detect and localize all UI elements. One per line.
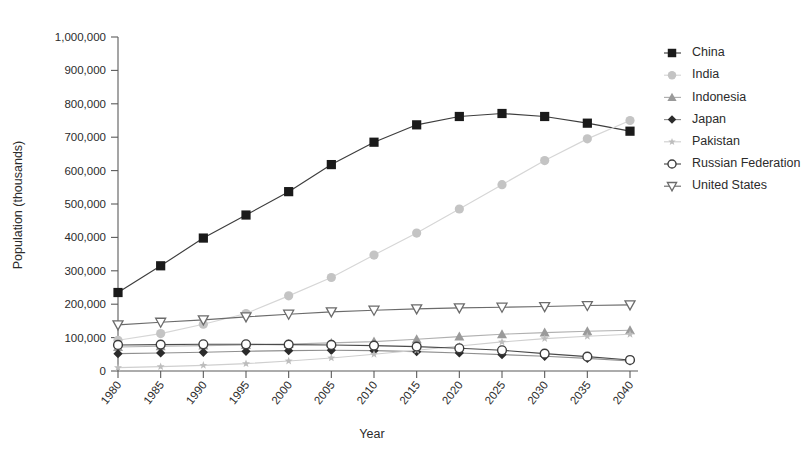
y-tick-label: 1,000,000: [55, 31, 106, 43]
marker-star: [327, 354, 335, 362]
marker-filled-circle: [583, 134, 592, 143]
legend-label: China: [692, 45, 725, 59]
marker-filled-diamond: [668, 115, 676, 123]
marker-open-circle: [540, 349, 549, 358]
marker-star: [285, 357, 293, 365]
legend-item-united-states[interactable]: United States: [664, 178, 767, 192]
x-tick-label: 1990: [184, 379, 209, 407]
marker-filled-square: [284, 187, 293, 196]
legend-item-japan[interactable]: Japan: [664, 112, 726, 126]
y-tick-label: 800,000: [64, 98, 106, 110]
legend-item-india[interactable]: India: [664, 67, 719, 81]
marker-filled-square: [412, 120, 421, 129]
legend-label: Pakistan: [692, 134, 740, 148]
legend-label: India: [692, 67, 719, 81]
x-tick-label: 2010: [354, 379, 379, 407]
marker-filled-circle: [625, 116, 634, 125]
data-series-group: [113, 109, 635, 371]
marker-filled-square: [540, 112, 549, 121]
marker-open-circle: [284, 340, 293, 349]
x-tick-label: 2020: [440, 379, 465, 407]
marker-star: [242, 359, 250, 367]
marker-filled-square: [241, 210, 250, 219]
series-china: [113, 109, 634, 297]
legend-item-indonesia[interactable]: Indonesia: [664, 90, 746, 104]
marker-open-circle: [455, 344, 464, 353]
x-tick-label: 2035: [568, 379, 593, 407]
marker-filled-square: [497, 109, 506, 118]
marker-star: [498, 338, 506, 346]
marker-filled-circle: [369, 251, 378, 260]
marker-open-circle: [668, 160, 676, 168]
marker-open-circle: [242, 340, 251, 349]
x-tick-label: 2040: [610, 379, 635, 407]
marker-filled-square: [113, 288, 122, 297]
marker-open-triangle-down: [113, 321, 123, 330]
y-axis: 0100,000200,000300,000400,000500,000600,…: [55, 31, 118, 377]
x-tick-label: 2030: [525, 379, 550, 407]
marker-filled-circle: [668, 71, 676, 79]
marker-open-circle: [412, 342, 421, 351]
x-tick-label: 2025: [482, 379, 507, 407]
marker-filled-square: [668, 49, 676, 57]
x-tick-label: 2015: [397, 379, 422, 407]
marker-filled-square: [327, 160, 336, 169]
y-axis-title: Population (thousands): [11, 141, 25, 270]
marker-filled-square: [156, 261, 165, 270]
y-tick-label: 700,000: [64, 131, 106, 143]
y-tick-label: 400,000: [64, 231, 106, 243]
marker-filled-circle: [327, 273, 336, 282]
x-tick-label: 1980: [98, 379, 123, 407]
y-tick-label: 100,000: [64, 332, 106, 344]
marker-open-circle: [626, 356, 635, 365]
marker-filled-square: [455, 112, 464, 121]
chart-canvas: 0100,000200,000300,000400,000500,000600,…: [0, 0, 807, 453]
marker-open-circle: [199, 340, 208, 349]
x-tick-label: 1995: [226, 379, 251, 407]
legend-label: Japan: [692, 112, 726, 126]
legend-label: Russian Federation: [692, 156, 800, 170]
marker-filled-circle: [540, 156, 549, 165]
legend-label: United States: [692, 178, 767, 192]
y-tick-label: 0: [100, 365, 106, 377]
marker-filled-square: [583, 119, 592, 128]
marker-star: [668, 138, 675, 145]
y-tick-label: 500,000: [64, 198, 106, 210]
x-axis-title: Year: [359, 427, 384, 441]
marker-open-circle: [156, 340, 165, 349]
marker-filled-square: [625, 127, 634, 136]
marker-filled-circle: [284, 291, 293, 300]
marker-filled-square: [369, 138, 378, 147]
marker-filled-circle: [497, 180, 506, 189]
y-tick-label: 900,000: [64, 64, 106, 76]
x-tick-label: 2005: [312, 379, 337, 407]
marker-open-circle: [498, 346, 507, 355]
legend-item-pakistan[interactable]: Pakistan: [664, 134, 740, 148]
marker-star: [199, 361, 207, 369]
marker-open-circle: [327, 341, 336, 350]
marker-filled-circle: [156, 329, 165, 338]
legend-item-china[interactable]: China: [664, 45, 725, 59]
marker-filled-circle: [455, 204, 464, 213]
marker-open-circle: [114, 341, 123, 350]
x-tick-label: 1985: [141, 379, 166, 407]
series-united-states: [113, 301, 635, 330]
legend-item-russian-federation[interactable]: Russian Federation: [664, 156, 800, 170]
y-tick-label: 600,000: [64, 165, 106, 177]
marker-open-circle: [370, 341, 379, 350]
chart-legend: ChinaIndiaIndonesiaJapanPakistanRussian …: [664, 45, 800, 192]
y-tick-label: 300,000: [64, 265, 106, 277]
x-axis: 1980198519901995200020052010201520202025…: [98, 371, 638, 406]
legend-label: Indonesia: [692, 90, 746, 104]
x-tick-label: 2000: [269, 379, 294, 407]
marker-open-circle: [583, 352, 592, 361]
y-tick-label: 200,000: [64, 298, 106, 310]
marker-filled-circle: [412, 228, 421, 237]
population-line-chart: 0100,000200,000300,000400,000500,000600,…: [0, 0, 807, 453]
marker-filled-square: [199, 233, 208, 242]
marker-star: [157, 362, 165, 370]
